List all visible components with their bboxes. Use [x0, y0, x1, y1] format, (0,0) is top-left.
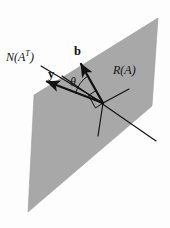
null-space-label: N(AT) [6, 50, 34, 63]
figure-canvas [0, 0, 170, 228]
range-space-label: R(A) [113, 64, 136, 76]
vector-y-label: y [48, 68, 54, 81]
null-space-label-main: N(A [6, 50, 25, 64]
linear-algebra-figure: N(AT) R(A) b y θ [0, 0, 170, 228]
null-space-label-close: ) [30, 50, 34, 64]
angle-theta-label: θ [70, 76, 76, 88]
range-space-plane [28, 18, 158, 212]
vector-b-label: b [74, 45, 81, 58]
